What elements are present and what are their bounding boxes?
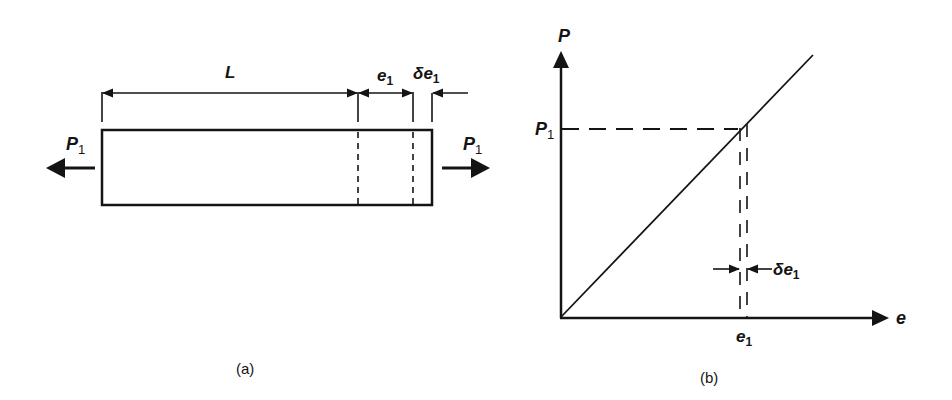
load-label-right: P1 [463, 134, 482, 157]
arrowhead-left-icon [46, 158, 65, 178]
y-axis-arrowhead-icon [553, 51, 569, 68]
load-arrow-right [442, 158, 490, 178]
y-axis-label: P [558, 26, 571, 46]
e1-tick-label: e1 [736, 327, 752, 349]
figure-canvas: L e1 δe1 P1 P1 (a) P e [0, 0, 952, 400]
x-axis-arrowhead-icon [872, 310, 889, 326]
delta-e1-graph-label: δe1 [773, 260, 800, 282]
length-label: L [225, 63, 235, 82]
load-arrow-left [46, 158, 95, 178]
arrowhead-right-icon [471, 158, 490, 178]
panel-a: L e1 δe1 P1 P1 (a) [46, 63, 490, 377]
panel-b: P e P1 δe1 e1 (b) [535, 26, 906, 386]
delta-e1-label: δe1 [413, 64, 440, 86]
panel-b-caption: (b) [700, 369, 718, 386]
panel-a-caption: (a) [236, 360, 254, 377]
load-label-left: P1 [66, 134, 85, 157]
x-axis-label: e [896, 308, 906, 328]
extension-e1-label: e1 [377, 66, 393, 88]
bar-specimen [102, 130, 432, 205]
p1-tick-label: P1 [535, 119, 554, 142]
